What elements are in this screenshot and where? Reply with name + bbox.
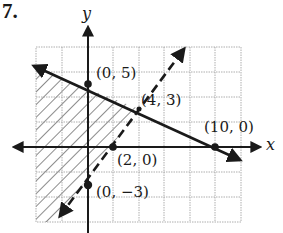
point-label-0-5: (0, 5): [96, 66, 136, 81]
graph-figure: 7. y x (0, 5) (4, 3) (10, 0) (2, 0) (0, …: [0, 0, 283, 233]
point-label-2-0: (2, 0): [117, 153, 157, 168]
point-2-0: [109, 143, 117, 151]
point-label-4-3: (4, 3): [141, 93, 181, 108]
y-axis-label: y: [82, 6, 91, 22]
point-0-neg3: [84, 181, 92, 189]
x-axis-label: x: [266, 137, 275, 153]
point-label-0-neg3: (0, −3): [96, 185, 149, 200]
point-0-5: [84, 80, 92, 88]
point-10-0: [211, 143, 219, 151]
point-label-10-0: (10, 0): [204, 120, 254, 135]
problem-number: 7.: [2, 1, 18, 22]
